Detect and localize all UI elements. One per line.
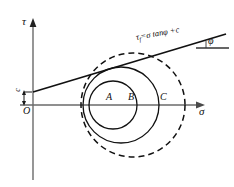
circle-center-label-b: B [128,92,134,102]
shear-stress-axis [30,18,37,180]
cohesion-intercept-marker [22,90,32,106]
failure-envelope-line [33,34,226,92]
friction-angle-label: φ [208,36,214,46]
circle-center-label-c: C [160,92,167,102]
shear-stress-axis-label: τ [22,16,26,27]
cohesion-label: c [14,88,22,92]
figure-canvas [0,0,234,187]
normal-stress-axis [20,102,205,109]
origin-label: O [23,106,30,116]
circle-center-label-a: A [106,92,112,102]
mohr-coulomb-figure: τ σ O c A B C φ τf=σ tanφ +c [0,0,234,187]
normal-stress-axis-label: σ [199,106,204,117]
